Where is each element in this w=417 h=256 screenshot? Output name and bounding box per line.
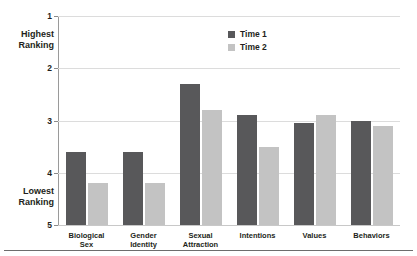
axis-caption-highest-line2: Ranking [4,40,54,51]
x-label-biological-sex: BiologicalSex [58,231,115,249]
x-label-gender-identity: GenderIdentity [115,231,172,249]
bar-biological-sex-time-2 [88,183,108,225]
bar-intentions-time-2 [259,147,279,225]
x-label-line: Identity [115,240,172,249]
y-tick-mark-5 [54,225,58,226]
x-label-line: Biological [58,231,115,240]
bar-biological-sex-time-1 [66,152,86,225]
y-tick-label-3: 3 [36,117,52,126]
legend-swatch-time-2-icon [228,44,235,51]
chart-figure: 12345 Highest Ranking Lowest Ranking Bio… [0,0,417,256]
x-label-line: Intentions [229,231,286,240]
x-label-values: Values [286,231,343,240]
bar-gender-identity-time-2 [145,183,165,225]
legend-swatch-time-1-icon [228,31,235,38]
x-label-line: Sexual [172,231,229,240]
bottom-divider-rule [4,250,413,251]
y-tick-label-2: 2 [36,64,52,73]
legend-item-time-2: Time 2 [228,42,267,53]
y-tick-label-4: 4 [36,169,52,178]
legend-label-time-2: Time 2 [240,43,267,52]
axis-caption-lowest: Lowest Ranking [4,186,54,208]
bar-values-time-2 [316,115,336,225]
bar-gender-identity-time-1 [123,152,143,225]
x-label-behaviors: Behaviors [343,231,400,240]
x-label-line: Gender [115,231,172,240]
bar-sexual-attraction-time-1 [180,84,200,225]
axis-caption-lowest-line1: Lowest [4,186,54,197]
x-label-sexual-attraction: SexualAttraction [172,231,229,249]
bar-behaviors-time-1 [351,121,371,226]
bar-sexual-attraction-time-2 [202,110,222,225]
x-label-line: Attraction [172,240,229,249]
y-tick-label-5: 5 [36,221,52,230]
x-label-line: Sex [58,240,115,249]
x-label-line: Behaviors [343,231,400,240]
axis-caption-highest-line1: Highest [4,29,54,40]
y-tick-label-1: 1 [36,12,52,21]
x-label-line: Values [286,231,343,240]
bar-behaviors-time-2 [373,126,393,225]
chart-legend: Time 1 Time 2 [228,29,267,55]
gridline-5 [58,225,400,226]
legend-label-time-1: Time 1 [240,30,267,39]
bar-values-time-1 [294,123,314,225]
axis-caption-lowest-line2: Ranking [4,197,54,208]
bar-intentions-time-1 [237,115,257,225]
axis-caption-highest: Highest Ranking [4,29,54,51]
legend-item-time-1: Time 1 [228,29,267,40]
x-label-intentions: Intentions [229,231,286,240]
